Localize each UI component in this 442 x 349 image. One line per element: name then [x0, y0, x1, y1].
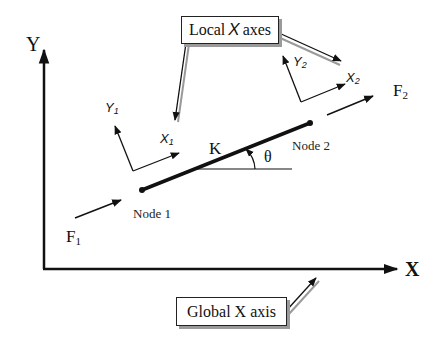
global-callout-pointer: [286, 278, 316, 311]
angle-label: θ: [264, 148, 272, 165]
global-x-label: X: [405, 258, 420, 280]
local-x2-label: X2: [345, 70, 360, 86]
stiffness-label: K: [209, 139, 222, 158]
local-y1-label: Y1: [105, 100, 119, 116]
local-callout-pointer-2-shadow: [278, 37, 340, 65]
local-axes-callout: Local X axes: [181, 16, 279, 44]
local-x1-axis: [133, 153, 179, 171]
node-2-dot: [307, 120, 313, 126]
global-axis-callout: Global X axis: [176, 297, 287, 326]
callout-pointers: [175, 33, 341, 314]
force-f1-arrow: [75, 200, 121, 218]
force-f2-label: F2: [393, 81, 408, 101]
force-f1-label: F1: [66, 227, 81, 247]
node-1-dot: [139, 187, 145, 193]
global-callout-pointer-shadow: [289, 281, 319, 314]
global-callout-text: Global X axis: [187, 303, 276, 321]
local-callout-suffix: axes: [243, 21, 271, 39]
local-x1-label: X1: [159, 131, 174, 147]
local-callout-axis: X: [228, 20, 239, 40]
node-1-label: Node 1: [133, 206, 171, 221]
local-callout-pointer-2: [279, 33, 341, 61]
angle-arc: [246, 149, 255, 169]
local-axes-node-1: Y1 X1: [105, 100, 179, 171]
local-x2-axis: [301, 84, 345, 102]
local-axes-1-corner: [115, 126, 133, 171]
force-f2-arrow: [327, 96, 373, 115]
global-y-label: Y: [26, 33, 40, 55]
local-callout-prefix: Local: [189, 21, 225, 39]
node-2-label: Node 2: [292, 138, 330, 153]
local-y2-label: Y2: [293, 54, 307, 70]
local-axes-node-2: Y2 X2: [283, 54, 360, 102]
